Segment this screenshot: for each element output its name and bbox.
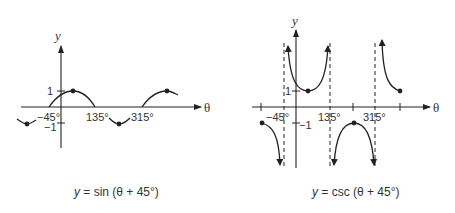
point-max-local — [260, 121, 265, 126]
sine-curve-right — [142, 91, 178, 107]
point-max — [71, 89, 76, 94]
cosecant-graph: y θ 1 −1 −45° 135° 315° — [252, 13, 439, 168]
point-min — [25, 122, 30, 127]
tick-label-135: 135° — [318, 111, 341, 123]
csc-branch-lower-right — [354, 123, 374, 165]
x-axis-label: θ — [433, 100, 439, 115]
tick-label-135: 135° — [86, 111, 109, 123]
csc-branch-upper-right — [308, 46, 328, 91]
point-min-local — [398, 89, 403, 94]
cosecant-caption: y = csc (θ + 45°) — [312, 185, 400, 199]
point-max — [165, 89, 170, 94]
csc-branch-far-right — [382, 40, 400, 91]
diagram-canvas: y θ 1 −1 −45° 135° 315° y θ 1 −1 −45° — [0, 0, 455, 213]
y-axis-label: y — [290, 13, 298, 28]
tick-label-y-neg1: −1 — [299, 119, 312, 131]
tick-label-315: 315° — [131, 111, 154, 123]
csc-branch-lower-left — [334, 123, 354, 165]
x-axis-label: θ — [204, 100, 210, 115]
sine-curve — [49, 91, 95, 107]
csc-branch-far-left — [262, 123, 280, 165]
tick-label-neg45: −45° — [266, 111, 289, 123]
sine-graph: y θ 1 −1 −45° 135° 315° — [17, 28, 210, 148]
point-min — [117, 122, 122, 127]
point-min-local — [306, 89, 311, 94]
tick-label-315: 315° — [363, 111, 386, 123]
tick-label-neg45: −45° — [37, 111, 60, 123]
caption-equation: = csc (θ + 45°) — [318, 185, 400, 199]
y-axis-label: y — [53, 28, 61, 43]
caption-equation: = sin (θ + 45°) — [80, 185, 159, 199]
point-max-local — [352, 121, 357, 126]
sine-caption: y = sin (θ + 45°) — [74, 185, 159, 199]
tick-label-y-1: 1 — [47, 85, 53, 97]
tick-label-y-1: 1 — [285, 85, 291, 97]
